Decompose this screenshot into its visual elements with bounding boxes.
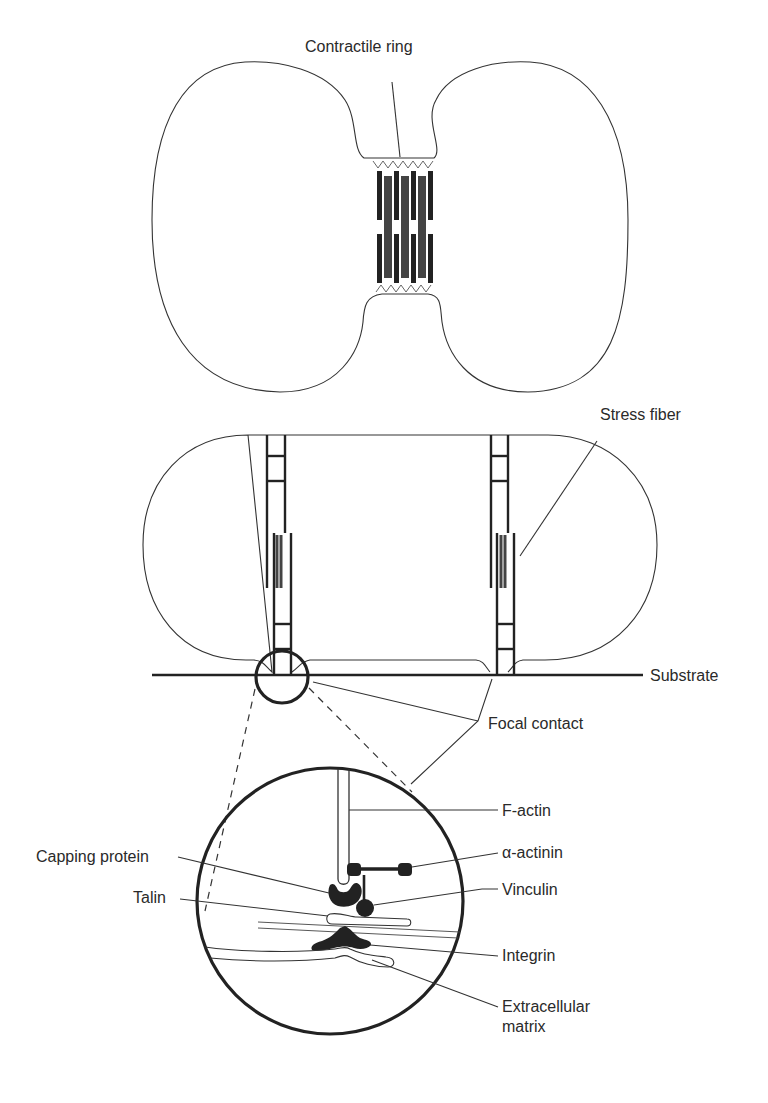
focal-contact-detail-panel: F-actin α-actinin Vinculin Capping prote…	[36, 768, 591, 1035]
focal-contact-leader-right	[411, 679, 492, 784]
talin-leader	[180, 899, 328, 916]
capping-protein-label: Capping protein	[36, 848, 149, 865]
vinculin-label: Vinculin	[502, 881, 558, 898]
alpha-actinin-shape	[347, 863, 412, 876]
detail-circle	[197, 768, 463, 1034]
talin-label: Talin	[133, 889, 166, 906]
contractile-ring-leader	[392, 82, 400, 157]
vinculin-leader	[374, 889, 498, 905]
extracellular-matrix-label-line1: Extracellular	[502, 998, 591, 1015]
cytoskeleton-diagram: Contractile ring	[0, 0, 768, 1103]
zoom-guide-left	[205, 689, 255, 911]
contractile-ring-zigzag-top	[373, 161, 433, 168]
adherent-cell-panel: Substrate Stress fiber Focal contact	[143, 406, 719, 911]
extracellular-matrix-label-line2: matrix	[502, 1018, 546, 1035]
contractile-ring-label: Contractile ring	[305, 38, 413, 55]
integrin-shape	[311, 926, 371, 951]
alpha-actinin-label: α-actinin	[502, 844, 563, 861]
zoom-guide-right	[309, 688, 412, 792]
contractile-ring-zigzag-bottom	[376, 285, 431, 292]
focal-contact-label: Focal contact	[488, 715, 584, 732]
contractile-ring-filaments	[377, 171, 433, 283]
stress-fiber-left	[267, 435, 291, 675]
focal-contact-leader	[313, 682, 478, 721]
substrate-label: Substrate	[650, 667, 719, 684]
extracellular-matrix-leader	[372, 960, 498, 1007]
membrane-line-2	[258, 928, 458, 938]
dividing-cell-panel: Contractile ring	[152, 38, 628, 392]
focal-contact-magnifier	[256, 651, 308, 703]
integrin-label: Integrin	[502, 947, 555, 964]
stress-fiber-leader	[520, 441, 597, 556]
capping-protein-shape	[328, 883, 361, 907]
adherent-cell-outline	[143, 435, 657, 672]
stress-fiber-label: Stress fiber	[600, 406, 682, 423]
extracellular-matrix-fiber	[205, 947, 394, 967]
stress-fiber-right	[491, 435, 514, 675]
integrin-leader	[370, 945, 498, 956]
f-actin-label: F-actin	[502, 802, 551, 819]
